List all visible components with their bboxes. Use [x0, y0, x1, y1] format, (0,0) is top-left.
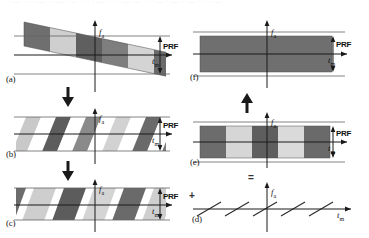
x-axis-arrowhead	[341, 52, 347, 57]
panel-c-x-axis-label: tm	[152, 206, 159, 218]
y-axis-arrowhead	[93, 108, 98, 114]
y-axis-arrowhead	[93, 179, 98, 185]
y-axis-arrowhead	[265, 20, 270, 26]
y-axis-arrowhead	[265, 112, 270, 118]
top-caption-strip: · · — ·· ·· — ·· — · — ·· · · — ·· ·· —·…	[4, 0, 364, 6]
panel-b-label: (b)	[6, 149, 16, 159]
panel-a-prf-label: PRF	[163, 42, 178, 51]
panel-f-y-axis-label: fa	[271, 27, 276, 39]
panel-f-graphic	[185, 14, 369, 92]
x-axis-arrowhead	[166, 132, 172, 137]
panel-a-y-axis-label: fa	[99, 27, 104, 39]
y-axis-arrowhead	[93, 20, 98, 26]
x-axis-arrowhead	[345, 207, 351, 212]
panel-b-y-axis-label: fa	[99, 113, 104, 125]
panel-d-label: (d)	[192, 214, 202, 224]
panel-e: fa tm PRF (e)	[185, 110, 369, 170]
x-axis-arrowhead	[166, 53, 172, 58]
x-axis-arrowhead	[166, 203, 172, 208]
panel-c-y-axis-label: fa	[99, 184, 104, 196]
panel-b: fa tm PRF (b)	[0, 104, 185, 166]
panel-e-graphic	[185, 110, 369, 170]
panel-d-graphic	[185, 178, 369, 236]
panel-b-x-axis-label: tm	[152, 135, 159, 147]
x-axis-arrowhead	[341, 140, 347, 145]
panel-e-label: (e)	[190, 157, 199, 167]
panel-a-x-axis-label: tm	[152, 56, 159, 68]
panel-e-x-axis-label: tm	[328, 143, 335, 155]
panel-c-prf-label: PRF	[163, 192, 178, 201]
panel-d-y-axis-label: fa	[271, 187, 276, 199]
azimuth-spectrum-figure: · · — ·· ·· — ·· — · — ·· · · — ·· ·· —·…	[0, 0, 369, 238]
panel-e-y-axis-label: fa	[271, 117, 276, 129]
y-axis-arrowhead	[265, 182, 270, 188]
panel-d: fa tm (d)	[185, 178, 369, 236]
panel-b-prf-label: PRF	[163, 121, 178, 130]
panel-f-x-axis-label: tm	[328, 55, 335, 67]
panel-a-label: (a)	[6, 74, 15, 84]
panel-f: fa tm PRF (f)	[185, 14, 369, 92]
panel-e-prf-label: PRF	[336, 129, 351, 138]
panel-a: fa tm PRF (a)	[0, 14, 185, 94]
panel-a-graphic	[0, 14, 185, 94]
panel-c: fa tm PRF (c)	[0, 176, 185, 234]
panel-f-prf-label: PRF	[336, 40, 351, 49]
panel-f-label: (f)	[190, 72, 198, 82]
panel-d-x-axis-label: tm	[337, 210, 344, 222]
panel-c-graphic	[0, 176, 185, 234]
panel-c-label: (c)	[6, 218, 15, 228]
